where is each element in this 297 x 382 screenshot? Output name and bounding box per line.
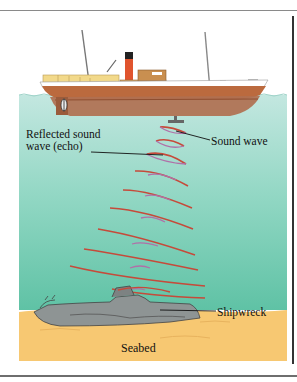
reflected-label-line2: wave (echo) [26,140,100,152]
water [19,94,287,310]
seabed-label: Seabed [121,342,156,354]
reflected-label-line1: Reflected sound [26,128,100,140]
shipwreck-label: Shipwreck [217,306,266,318]
sound-wave-label: Sound wave [211,135,268,147]
reflected-sound-wave-label: Reflected sound wave (echo) [26,128,100,152]
ship [40,30,268,116]
sonar-diagram [0,0,297,382]
